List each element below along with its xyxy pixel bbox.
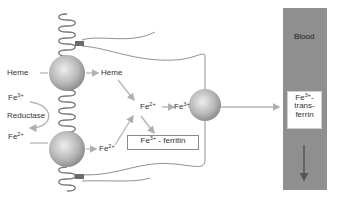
anchor-lower (75, 174, 84, 179)
label-heme-cell: Heme (101, 69, 122, 77)
membrane-coil-upper (59, 14, 76, 56)
ferroportin-sphere (189, 89, 221, 121)
ferritin-box: Fe3+ - ferritin (127, 135, 199, 150)
heme-transporter-sphere (49, 55, 85, 91)
membrane-coil-lower (59, 167, 76, 191)
label-heme-lumen: Heme (7, 69, 28, 77)
transferrin-box: Fe3+- trans- ferrin (287, 91, 322, 129)
label-fe2-lumen: Fe2+ (8, 133, 24, 141)
label-fe2-cell-lower: Fe2+ (99, 145, 115, 153)
label-reductase: Reductase (7, 112, 45, 120)
label-fe3-lumen: Fe3+ (8, 94, 24, 102)
anchor-upper (75, 41, 84, 46)
dmt1-transporter-sphere (49, 131, 85, 167)
label-fe2-cell-center: Fe2+ (140, 103, 156, 111)
membrane-coil-middle (59, 90, 76, 132)
label-blood: Blood (294, 33, 314, 41)
label-fe3-cell-center: Fe3+ (174, 103, 190, 111)
